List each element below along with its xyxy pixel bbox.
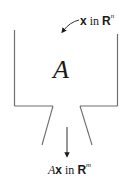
- output-vector: x: [55, 163, 62, 177]
- input-space: R: [102, 14, 111, 28]
- funnel-left: [42, 106, 53, 145]
- input-vector: x: [80, 14, 87, 28]
- output-dim: m: [86, 161, 91, 169]
- input-arrow-icon: [63, 20, 79, 31]
- matrix-label: A: [53, 57, 69, 83]
- output-space: R: [77, 163, 86, 177]
- input-connector: in: [90, 14, 99, 28]
- output-label: Ax in Rm: [48, 164, 91, 176]
- transformation-diagram: x in Rn A Ax in Rm: [0, 0, 129, 186]
- input-label: x in Rn: [80, 15, 114, 27]
- output-connector: in: [65, 163, 74, 177]
- funnel-right: [80, 106, 92, 145]
- input-dim: n: [111, 12, 115, 20]
